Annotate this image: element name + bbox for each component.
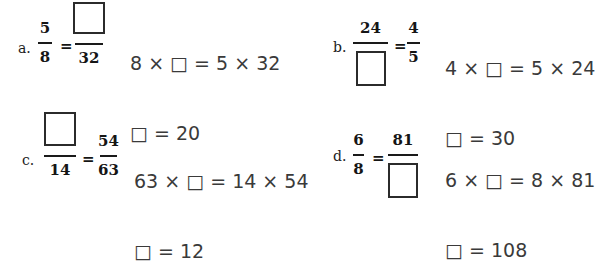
numerator: 81 bbox=[393, 132, 414, 149]
work-equation: 6 × □ = 8 × 81 bbox=[445, 170, 595, 190]
denominator: 5 bbox=[408, 49, 418, 66]
answer-box bbox=[73, 2, 105, 34]
fraction-right: 81 bbox=[388, 132, 418, 198]
equals-sign: = bbox=[372, 149, 385, 167]
answer-box bbox=[388, 163, 418, 198]
equals-sign: = bbox=[60, 37, 73, 55]
problem-b-label: b. bbox=[333, 39, 346, 55]
numerator: 6 bbox=[353, 132, 363, 149]
problem-d: d. 6 8 = 81 6 × □ = 8 × 81 □ = 108 bbox=[333, 130, 583, 200]
answer-box bbox=[356, 51, 386, 86]
numerator: 4 bbox=[408, 20, 418, 37]
denominator: 14 bbox=[50, 162, 71, 179]
answer-equation: □ = 108 bbox=[445, 240, 595, 260]
problem-d-label: d. bbox=[333, 148, 346, 164]
fraction-bar bbox=[353, 42, 388, 44]
problem-a: a. 5 8 = 32 8 × □ = 5 × 32 □ = 20 bbox=[18, 2, 273, 72]
fraction-left: 14 bbox=[44, 112, 76, 179]
denominator: 8 bbox=[40, 49, 50, 66]
answer-equation: □ = 12 bbox=[134, 241, 308, 261]
fraction-left: 24 bbox=[353, 20, 388, 86]
fraction-bar bbox=[407, 42, 420, 44]
fraction-bar bbox=[44, 155, 76, 157]
work-equation: 4 × □ = 5 × 24 bbox=[445, 58, 595, 78]
fraction-left: 5 8 bbox=[38, 20, 52, 66]
denominator: 32 bbox=[79, 50, 100, 67]
denominator: 8 bbox=[353, 161, 363, 178]
fraction-right: 4 5 bbox=[407, 20, 420, 66]
fraction-right: 32 bbox=[73, 2, 105, 67]
problem-c: c. 14 = 54 63 63 × □ = 14 × 54 □ = 12 bbox=[22, 112, 277, 187]
fraction-bar bbox=[100, 155, 117, 157]
problem-a-label: a. bbox=[18, 40, 31, 56]
fraction-bar bbox=[38, 42, 52, 44]
numerator: 5 bbox=[40, 20, 50, 37]
fraction-bar bbox=[75, 43, 103, 45]
equals-sign: = bbox=[82, 150, 95, 168]
numerator: 54 bbox=[98, 133, 119, 150]
work-equation: 8 × □ = 5 × 32 bbox=[130, 53, 280, 73]
fraction-bar bbox=[353, 154, 364, 156]
fraction-right: 54 63 bbox=[98, 133, 119, 179]
numerator: 24 bbox=[360, 20, 381, 37]
work-equation: 63 × □ = 14 × 54 bbox=[134, 171, 308, 191]
fraction-left: 6 8 bbox=[353, 132, 364, 178]
answer-box bbox=[44, 112, 76, 146]
solution-steps: 63 × □ = 14 × 54 □ = 12 bbox=[134, 131, 308, 265]
fraction-bar bbox=[388, 154, 418, 156]
denominator: 63 bbox=[98, 162, 119, 179]
problem-c-label: c. bbox=[22, 152, 34, 168]
problem-b: b. 24 = 4 5 4 × □ = 5 × 24 □ = 30 bbox=[333, 18, 583, 93]
equals-sign: = bbox=[394, 37, 407, 55]
solution-steps: 6 × □ = 8 × 81 □ = 108 bbox=[445, 130, 595, 265]
